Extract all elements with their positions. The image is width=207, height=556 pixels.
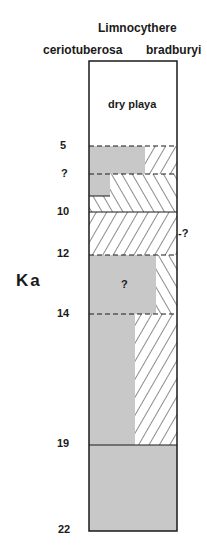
ceriotuberosa-fill-14 — [89, 314, 135, 445]
bradburyi-hatch-10 — [89, 212, 177, 255]
bradburyi-hatch-q-b — [89, 196, 177, 212]
tick-14: 14 — [57, 307, 69, 319]
bradburyi-hatch-12 — [156, 255, 177, 314]
tick-19: 19 — [57, 437, 69, 449]
axis-label-ka: Ka — [16, 271, 42, 291]
species-left-label: ceriotuberosa — [43, 43, 122, 57]
ceriotuberosa-fill-q — [89, 174, 110, 196]
bradburyi-hatch-5 — [145, 146, 177, 174]
bradburyi-hatch-q-a — [110, 174, 177, 196]
genus-title: Limnocythere — [98, 21, 177, 35]
uncertain-mark-middle: ? — [121, 278, 128, 290]
tick-22: 22 — [58, 523, 70, 535]
tick-5: 5 — [60, 139, 66, 151]
tick-10: 10 — [57, 205, 69, 217]
species-right-label: bradburyi — [146, 43, 201, 57]
tick-uncertain: ? — [61, 167, 68, 179]
bradburyi-hatch-14 — [135, 314, 177, 445]
tick-12: 12 — [57, 247, 69, 259]
dry-playa-label: dry playa — [108, 98, 156, 110]
ceriotuberosa-fill-19 — [89, 445, 177, 531]
uncertain-mark-right: -? — [178, 227, 188, 239]
ceriotuberosa-fill-5 — [89, 146, 145, 174]
